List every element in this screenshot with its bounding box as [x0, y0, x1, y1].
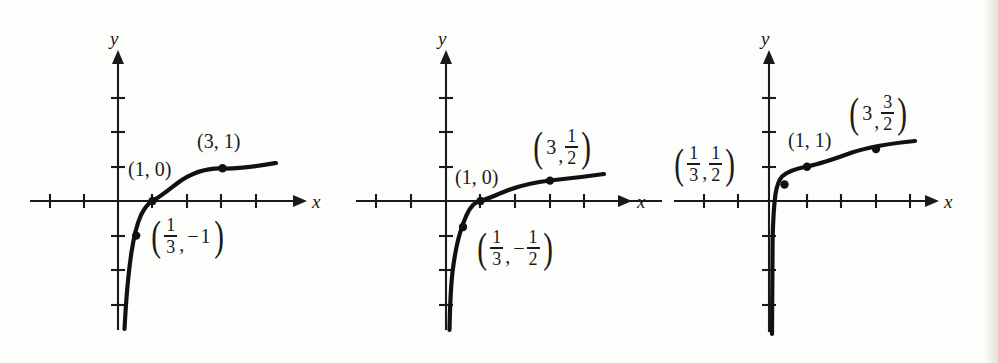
- point-label-1-0: (1, 0): [455, 167, 498, 187]
- y-axis-label: y: [110, 29, 118, 48]
- point-label-3-one-half: ( 3 , 1 2 ): [531, 127, 594, 167]
- y-axis-label: y: [438, 29, 446, 48]
- minus-sign: −: [185, 226, 199, 246]
- point-label-3-1: (3, 1): [197, 131, 240, 151]
- data-point: [780, 180, 788, 188]
- open-paren: (: [477, 230, 487, 265]
- y-axis-arrowhead: [440, 50, 452, 64]
- fraction-one-third: 1 3: [687, 144, 700, 184]
- x-axis-arrowhead: [925, 195, 939, 207]
- open-paren: (: [849, 95, 859, 130]
- point-label-3-three-halves: ( 3 , 3 2 ): [847, 93, 910, 133]
- data-point: [148, 197, 156, 205]
- close-paren: ): [214, 218, 224, 253]
- fraction-denominator: 3: [490, 249, 503, 268]
- data-point: [218, 164, 226, 172]
- x-axis-arrowhead: [618, 195, 632, 207]
- data-point: [803, 163, 811, 171]
- y-axis-arrowhead: [763, 50, 775, 64]
- x-axis-arrowhead: [293, 195, 307, 207]
- panel-1-plot: [0, 0, 332, 363]
- fraction-denominator: 2: [881, 114, 894, 133]
- fraction-numerator: 1: [687, 144, 700, 163]
- value-three: 3: [545, 137, 557, 157]
- data-point: [459, 223, 467, 231]
- fraction-denominator: 3: [687, 165, 700, 184]
- close-paren: ): [582, 129, 592, 164]
- fraction-one-third: 1 3: [164, 216, 177, 256]
- close-paren: ): [543, 230, 553, 265]
- point-label-third-neg-one: ( 1 3 , − 1 ): [149, 216, 226, 256]
- graph-panel-3: y x ( 1 3 , 1 2 ) (1, 1) ( 3 , 3: [662, 0, 998, 363]
- fraction-denominator: 2: [709, 165, 722, 184]
- close-paren: ): [898, 95, 908, 130]
- fraction-numerator: 1: [527, 228, 540, 247]
- y-axis-arrowhead: [112, 50, 124, 64]
- x-axis-label: x: [637, 192, 645, 211]
- fraction-denominator: 2: [565, 148, 578, 167]
- fraction-numerator: 1: [709, 144, 722, 163]
- open-paren: (: [674, 146, 684, 181]
- data-point: [476, 197, 484, 205]
- x-axis-label: x: [944, 192, 952, 211]
- open-paren: (: [151, 218, 161, 253]
- fraction-denominator: 2: [527, 249, 540, 268]
- comma-separator: ,: [701, 162, 708, 184]
- fraction-numerator: 1: [164, 216, 177, 235]
- point-label-1-1: (1, 1): [788, 130, 831, 150]
- minus-sign: −: [511, 238, 525, 258]
- fraction-numerator: 3: [881, 93, 894, 112]
- fraction-numerator: 1: [565, 127, 578, 146]
- comma-separator: ,: [504, 246, 511, 268]
- data-point: [872, 145, 880, 153]
- data-point: [546, 176, 554, 184]
- fraction-numerator: 1: [490, 228, 503, 247]
- fraction-denominator: 3: [164, 237, 177, 256]
- point-label-third-one-half: ( 1 3 , 1 2 ): [672, 144, 738, 184]
- close-paren: ): [726, 146, 736, 181]
- comma-separator: ,: [557, 145, 564, 167]
- fraction-three-halves: 3 2: [881, 93, 894, 133]
- figure-canvas: y x (1, 0) (3, 1) ( 1 3 , − 1 ): [0, 0, 998, 363]
- open-paren: (: [533, 129, 543, 164]
- value-three: 3: [861, 103, 873, 123]
- y-axis-label: y: [761, 29, 769, 48]
- point-label-third-neg-one-half: ( 1 3 , − 1 2 ): [475, 228, 555, 268]
- fraction-one-half: 1 2: [527, 228, 540, 268]
- graph-panel-1: y x (1, 0) (3, 1) ( 1 3 , − 1 ): [0, 0, 332, 363]
- graph-panel-2: y x (1, 0) ( 3 , 1 2 ) ( 1 3 , − 1: [332, 0, 662, 363]
- fraction-one-third: 1 3: [490, 228, 503, 268]
- x-axis-label: x: [312, 192, 320, 211]
- value-one: 1: [200, 226, 212, 246]
- point-label-1-0: (1, 0): [128, 159, 171, 179]
- data-point: [132, 231, 140, 239]
- comma-separator: ,: [178, 234, 185, 256]
- log-curve: [772, 141, 915, 334]
- comma-separator: ,: [873, 111, 880, 133]
- fraction-one-half: 1 2: [565, 127, 578, 167]
- fraction-one-half: 1 2: [709, 144, 722, 184]
